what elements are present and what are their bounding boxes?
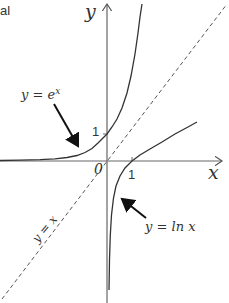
x-tick-label: 1 bbox=[128, 168, 135, 181]
ln-pointer-arrow bbox=[122, 199, 146, 218]
exp-label-exponent: x bbox=[55, 86, 60, 96]
identity-line bbox=[2, 4, 227, 299]
ln-curve bbox=[109, 122, 197, 290]
y-tick-label: 1 bbox=[92, 125, 99, 138]
exp-curve bbox=[0, 4, 142, 161]
graph-svg bbox=[0, 0, 229, 303]
exp-pointer-arrow bbox=[54, 104, 78, 146]
graph-canvas: al y x 0 1 1 y = ex y = ln x y = x bbox=[0, 0, 229, 303]
corner-text: al bbox=[0, 4, 10, 17]
exp-curve-label: y = ex bbox=[21, 87, 60, 101]
y-axis-label: y bbox=[85, 2, 96, 21]
ln-curve-label: y = ln x bbox=[145, 220, 196, 233]
exp-label-base: y = e bbox=[21, 87, 55, 102]
origin-label: 0 bbox=[94, 162, 103, 176]
x-axis-label: x bbox=[208, 163, 219, 182]
